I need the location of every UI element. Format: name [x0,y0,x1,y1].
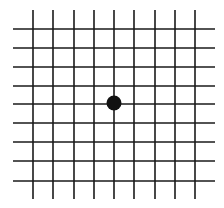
amsler-grid-diagram [0,0,224,208]
center-fixation-dot [107,96,122,111]
grid-canvas [0,0,224,208]
